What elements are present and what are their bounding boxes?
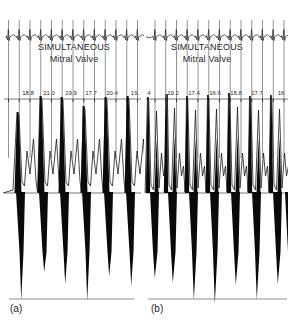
measurement-value: 17.7	[251, 90, 263, 96]
measurement-value: 16	[278, 90, 285, 96]
measurement-value: 17.7	[85, 90, 97, 96]
measurement-value: 19.9	[65, 90, 77, 96]
panel-b: SIMULTANEOUS Mitral Valve 419.217.416.61…	[144, 0, 288, 331]
measurement-row-a: 18.821.019.917.720.419.	[0, 0, 144, 331]
measurement-value: 19.	[131, 90, 139, 96]
measurement-row-b: 419.217.416.618.817.716	[144, 0, 288, 331]
measurement-value: 18.8	[22, 90, 34, 96]
figure-canvas: SIMULTANEOUS Mitral Valve 18.821.019.917…	[0, 0, 288, 331]
measurement-value: 16.6	[209, 90, 221, 96]
measurement-value: 21.0	[43, 90, 55, 96]
measurement-value: 20.4	[106, 90, 118, 96]
panel-label-a: (a)	[10, 303, 22, 314]
measurement-value: 18.8	[230, 90, 242, 96]
panel-label-b: (b)	[151, 303, 163, 314]
panel-a: SIMULTANEOUS Mitral Valve 18.821.019.917…	[0, 0, 144, 331]
measurement-value: 19.2	[167, 90, 179, 96]
measurement-value: 17.4	[188, 90, 200, 96]
measurement-value: 4	[147, 90, 150, 96]
